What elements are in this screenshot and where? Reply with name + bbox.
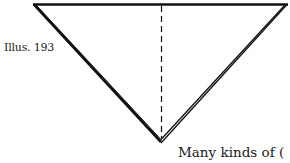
right-edge-outer <box>161 5 287 144</box>
right-edge-inner <box>161 6 285 140</box>
body-text-fragment: Many kinds of ( <box>178 144 284 160</box>
left-edge-inner <box>37 6 162 140</box>
triangle-outline <box>33 5 288 144</box>
left-edge <box>34 5 161 143</box>
illustration-caption: Illus. 193 <box>4 41 54 54</box>
folded-triangle-diagram <box>0 0 290 163</box>
